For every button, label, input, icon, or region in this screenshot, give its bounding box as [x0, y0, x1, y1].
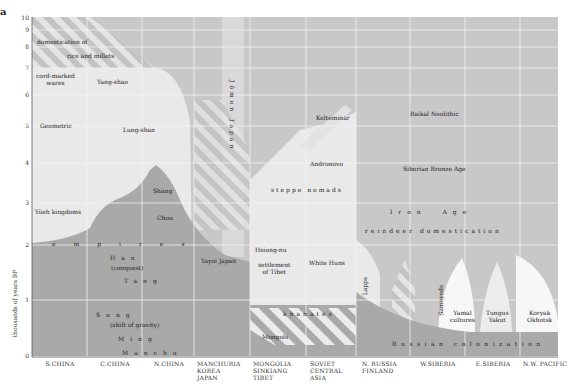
label-siberian-bronze-age: Siberian Bronze Age	[403, 165, 466, 172]
label-shang: Shang	[153, 187, 172, 194]
label-han: Han	[110, 254, 141, 261]
label-tang: Tang	[124, 277, 163, 284]
y-tick: 2	[15, 241, 29, 248]
label-kelteminar: Kelteminar	[316, 114, 350, 121]
y-tick: 8	[15, 43, 29, 50]
label-sung: Sung	[96, 311, 136, 318]
label-andronovo: Andronovo	[310, 160, 343, 167]
label-samoyeds: Samoyeds	[437, 285, 444, 316]
column-label-n-russia: N. RUSSIA FINLAND	[362, 360, 410, 374]
column-label-s-china: S.CHINA	[34, 360, 86, 367]
y-tick: 6	[15, 91, 29, 98]
label-reindeer-domestication: reindeer domestication	[365, 227, 502, 234]
column-label-nw-pacific: N.W. PACIFIC	[517, 360, 572, 367]
label-lung-shan: Lung-shan	[123, 126, 155, 133]
label-iron-age: Iron Age	[390, 208, 472, 215]
column-label-w-siberia: W.SIBERIA	[412, 360, 464, 367]
column-label-mongolia: MONGOLIA SINKIANG TIBET	[253, 360, 305, 381]
y-tick: 10	[15, 14, 29, 21]
label-manchu: Manchu	[122, 349, 183, 356]
y-tick: 9	[15, 26, 29, 33]
label-hsiung-nu: Hsiung-nu	[255, 246, 287, 253]
label-rice-millets: rice and millets	[67, 52, 114, 59]
label-yang-shao: Yang-shao	[97, 78, 128, 85]
chronology-figure: a 10 9 8 7 6 5 4 3 2 1 0 thousands of ye…	[0, 0, 572, 390]
y-tick: 0	[15, 352, 29, 359]
label-lapps: Lapps	[361, 277, 368, 295]
panel-letter: a	[0, 6, 6, 17]
label-sung-shift: (shift of gravity)	[110, 321, 159, 328]
label-empires: empires	[52, 240, 203, 247]
label-russian-colonization: Russian colonization	[392, 340, 545, 347]
label-steppe-nomads: steppe nomads	[271, 186, 343, 193]
column-label-e-siberia: E.SIBERIA	[467, 360, 519, 367]
column-label-n-china: N.CHINA	[143, 360, 195, 367]
label-tungus-yakut: Tungus Yakut	[486, 309, 509, 323]
label-white-huns: White Huns	[309, 259, 345, 266]
label-chou: Chou	[157, 214, 173, 221]
y-axis-label: thousands of years BP	[11, 264, 18, 344]
y-tick: 7	[15, 64, 29, 71]
label-yayoi-japan: Yayoi Japan	[201, 257, 236, 264]
label-ming: Ming	[118, 335, 158, 342]
label-cord-marked: cord-marked wares	[36, 72, 75, 86]
y-tick: 5	[15, 122, 29, 129]
y-tick: 3	[15, 199, 29, 206]
label-geometric: Geometric	[40, 122, 72, 129]
label-han-conquest: (conquest)	[111, 264, 143, 271]
label-domestication: domestication of	[37, 38, 88, 45]
label-settlement-tibet: settlement of Tibet	[258, 261, 290, 275]
column-label-manchuria: MANCHURIA KOREA JAPAN	[197, 360, 249, 381]
y-tick: 4	[15, 159, 29, 166]
label-yamal-cultures: Yamal cultures	[450, 309, 475, 323]
label-jomon: Jōmon Japan	[229, 80, 236, 151]
label-khanates: khanates	[283, 310, 335, 317]
column-label-c-china: C.CHINA	[89, 360, 141, 367]
label-mongols: Mongols	[262, 333, 288, 340]
label-yueh-kingdoms: Yüeh kingdoms	[35, 208, 81, 215]
label-baikal-neolithic: Baikal Neolithic	[410, 110, 459, 117]
label-koryak-okhotsk: Koryak Okhotsk	[527, 309, 552, 323]
column-label-soviet-central-asia: SOVIET CENTRAL ASIA	[310, 360, 356, 381]
